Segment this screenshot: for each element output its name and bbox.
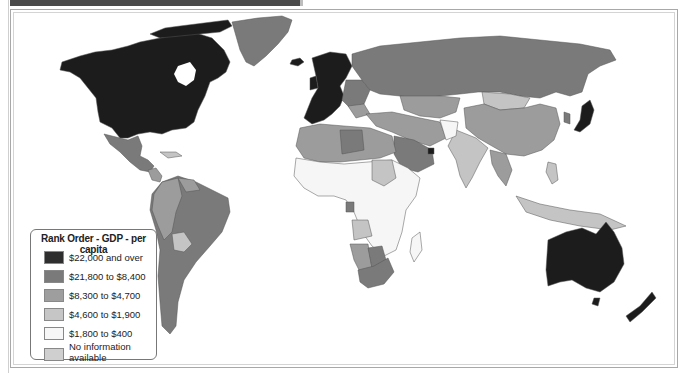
country-cuba [160,152,182,158]
country-sub-saharan-africa [294,158,420,256]
country-central-america [148,168,162,182]
country-russia [352,36,616,98]
country-greenland [232,16,292,66]
country-mexico [104,134,154,172]
legend-label: $4,600 to $1,900 [69,309,140,320]
legend-swatch [44,289,64,302]
legend-label: No information available [69,341,139,363]
country-madagascar [410,232,422,262]
legend-swatch [44,327,64,340]
country-libya [340,130,364,154]
legend-swatch [44,348,64,361]
legend-swatch [44,270,64,283]
legend-label: $1,800 to $400 [69,328,132,339]
map-legend: Rank Order - GDP - per capita $22,000 an… [30,229,157,360]
country-indonesia [516,196,626,230]
legend-swatch [44,308,64,321]
legend-item-tier5: $1,800 to $400 [44,327,132,340]
legend-item-tier4: $4,600 to $1,900 [44,308,140,321]
legend-label: $22,000 and over [69,252,143,263]
country-balkans [348,104,370,118]
country-kazakhstan [400,96,460,118]
legend-item-tier1: $22,000 and over [44,251,143,264]
country-gabon [346,202,354,212]
country-uae [428,148,434,154]
country-southeast-asia [490,150,512,186]
legend-label: $8,300 to $4,700 [69,290,140,301]
legend-label: $21,800 to $8,400 [69,271,146,282]
country-tasmania [592,298,600,306]
legend-item-tier2: $21,800 to $8,400 [44,270,146,283]
legend-item-no-info: No information available [44,341,139,363]
country-australia [546,222,624,292]
country-south-korea [564,112,570,124]
country-north-america-high [60,33,230,138]
country-japan [574,100,594,132]
legend-swatch [44,251,64,264]
country-iceland [290,58,304,66]
legend-item-tier3: $8,300 to $4,700 [44,289,140,302]
country-philippines [546,162,558,184]
country-new-zealand [626,292,656,322]
